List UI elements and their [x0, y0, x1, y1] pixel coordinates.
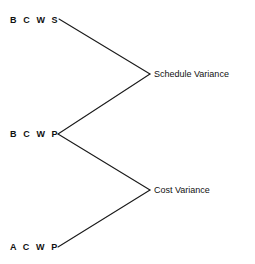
label-cost-variance: Cost Variance — [154, 185, 210, 195]
label-schedule-variance: Schedule Variance — [154, 69, 229, 79]
variance-diagram: B C W S B C W P A C W P Schedule Varianc… — [0, 0, 255, 264]
edge-bcwp-to-cost-variance — [58, 134, 150, 190]
edge-bcwp-to-schedule-variance — [58, 74, 150, 134]
edge-bcws-to-schedule-variance — [59, 19, 150, 74]
label-bcws: B C W S — [10, 15, 60, 25]
label-bcwp: B C W P — [10, 129, 60, 139]
label-acwp: A C W P — [10, 242, 59, 252]
edge-acwp-to-cost-variance — [58, 190, 150, 247]
